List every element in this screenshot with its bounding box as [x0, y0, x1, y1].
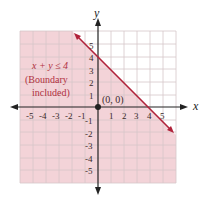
svg-text:-5: -5 [85, 166, 93, 176]
boundary-note-line2: included) [32, 87, 70, 99]
svg-text:-2: -2 [65, 111, 73, 121]
svg-text:-5: -5 [26, 111, 34, 121]
x-axis-arrow-left [10, 104, 18, 110]
test-point [95, 104, 101, 110]
svg-text:-4: -4 [39, 111, 47, 121]
svg-text:1: 1 [89, 91, 94, 101]
x-axis-label: x [192, 99, 199, 113]
test-point-label: (0, 0) [102, 94, 124, 106]
y-axis-arrow-down [95, 187, 101, 195]
x-axis-arrow-right [180, 104, 188, 110]
svg-text:5: 5 [160, 111, 165, 121]
svg-text:-3: -3 [52, 111, 60, 121]
svg-text:3: 3 [89, 66, 94, 76]
svg-text:-3: -3 [85, 141, 93, 151]
svg-text:2: 2 [89, 78, 94, 88]
svg-text:4: 4 [147, 111, 152, 121]
y-axis-label: y [93, 6, 100, 20]
svg-text:2: 2 [122, 111, 127, 121]
svg-text:-2: -2 [85, 129, 93, 139]
inequality-label: x + y ≤ 4 [31, 60, 68, 71]
svg-text:5: 5 [89, 41, 94, 51]
svg-text:-1: -1 [85, 116, 93, 126]
svg-text:4: 4 [89, 53, 94, 63]
svg-text:3: 3 [134, 111, 139, 121]
boundary-note-line1: (Boundary [25, 74, 68, 86]
svg-text:1: 1 [109, 111, 114, 121]
svg-text:-4: -4 [85, 154, 93, 164]
graph: y x -5 -4 -3 -2 -1 1 2 3 4 5 5 4 3 2 1 -… [0, 0, 209, 200]
